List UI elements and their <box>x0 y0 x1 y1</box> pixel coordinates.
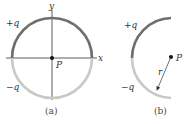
negative-arc <box>132 58 171 98</box>
figure-a: P x y +q −q (a) <box>6 1 103 116</box>
x-axis-label: x <box>98 53 103 63</box>
diagram-canvas: P x y +q −q (a) P r +q −q (b) <box>0 0 190 124</box>
radius-label: r <box>158 67 163 77</box>
point-p-label: P <box>55 60 63 70</box>
negative-charge-label: −q <box>121 82 135 92</box>
point-p-label: P <box>175 53 183 63</box>
caption-b: (b) <box>154 106 167 116</box>
positive-charge-label: +q <box>124 20 138 30</box>
figure-b: P r +q −q (b) <box>121 18 183 116</box>
point-p <box>50 56 54 60</box>
point-p <box>169 55 173 59</box>
y-axis-label: y <box>48 1 55 11</box>
negative-charge-label: −q <box>6 82 20 92</box>
positive-charge-label: +q <box>6 18 20 28</box>
caption-a: (a) <box>45 106 57 116</box>
positive-arc <box>132 18 171 58</box>
